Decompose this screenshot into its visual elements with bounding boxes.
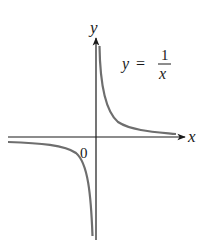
y-axis-label: y xyxy=(88,18,98,37)
reciprocal-graph: y x 0 y = 1 x xyxy=(0,0,208,249)
equation-lhs: y xyxy=(120,55,130,73)
equation-label: y = 1 x xyxy=(120,47,171,82)
origin-label: 0 xyxy=(80,145,88,161)
x-axis-label: x xyxy=(187,127,196,146)
equation-numerator: 1 xyxy=(161,47,169,63)
equation-equals: = xyxy=(136,55,145,72)
equation-denominator: x xyxy=(158,65,166,82)
